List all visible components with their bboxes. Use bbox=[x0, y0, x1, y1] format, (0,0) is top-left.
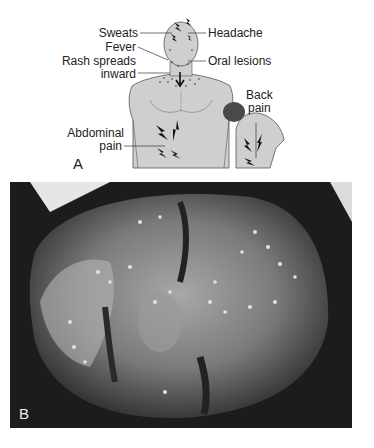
label-abdominal-line2: pain bbox=[60, 140, 122, 153]
head-shape bbox=[164, 22, 198, 66]
label-fever: Fever bbox=[80, 41, 136, 54]
panel-a-diagram: Sweats Headache Fever Oral lesions Rash … bbox=[0, 0, 374, 172]
panel-b-letter: B bbox=[19, 405, 29, 422]
panel-a-letter: A bbox=[73, 155, 83, 172]
label-sweats: Sweats bbox=[80, 27, 138, 40]
back-figure-head bbox=[223, 102, 245, 122]
body-illustration bbox=[0, 0, 374, 172]
panel-b-photo: B bbox=[10, 182, 352, 428]
label-back-line2: pain bbox=[248, 102, 271, 115]
label-oral-lesions: Oral lesions bbox=[208, 55, 271, 68]
label-rash-line2: inward bbox=[60, 68, 136, 81]
label-headache: Headache bbox=[208, 27, 263, 40]
clinical-photograph bbox=[10, 182, 352, 428]
